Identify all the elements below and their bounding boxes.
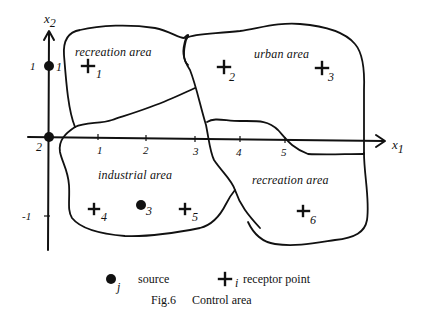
x-tick-3: 3 [193,146,199,157]
x-tick-1: 1 [97,145,103,156]
x-tick-2: 2 [143,145,149,156]
source-2-label: 2 [36,141,42,153]
area-label-recreation-top: recreation area [75,46,152,58]
receptor-5-cross [180,204,190,214]
legend-source-dot [106,274,116,284]
control-area-diagram [0,0,423,319]
receptor-3-cross [316,62,328,74]
receptor-6-cross [298,206,309,216]
y-tick-minus-1: -1 [22,211,31,222]
area-label-industrial: industrial area [98,169,172,181]
legend-receptor-sub: i [235,277,238,289]
receptor-1-label: 1 [96,68,102,80]
x1-axis [28,137,384,141]
legend-source-sub: j [117,281,120,293]
receptor-2-label: 2 [229,71,235,83]
receptor-5-label: 5 [192,211,198,223]
source-1-label: 1 [56,61,62,73]
x-tick-4: 4 [236,147,242,158]
x1-axis-label: x1 [392,138,404,155]
x2-axis-label: x2 [44,12,56,29]
figure-caption-title: Control area [192,294,252,306]
source-3-dot [136,200,146,210]
x-tick-5: 5 [281,147,287,158]
figure-caption-number: Fig.6 [151,294,176,306]
y-tick-1: 1 [30,61,36,72]
legend-receptor-label: receptor point [243,273,310,285]
receptor-3-label: 3 [328,71,334,83]
receptor-1-cross [82,60,94,72]
boundary-recreation-top-left [64,26,188,127]
legend-source-label: source [138,273,169,285]
area-label-urban: urban area [254,48,309,60]
receptor-4-cross [89,204,99,214]
boundary-recreation-bottom-right [248,153,368,245]
boundary-urban-area [186,24,364,153]
source-3-label: 3 [146,205,152,217]
receptor-4-label: 4 [101,211,107,223]
receptor-6-label: 6 [310,214,316,226]
area-label-recreation-bottom: recreation area [252,174,329,186]
source-1-dot [44,61,54,71]
legend-receptor-cross [219,273,231,285]
boundary-recreation-urban-divider [75,88,195,127]
source-2-dot [44,132,54,142]
